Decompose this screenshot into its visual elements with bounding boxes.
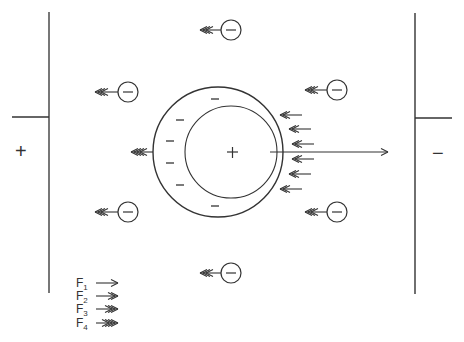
ion-top [200,20,241,40]
charged-particle [131,87,388,217]
cloud-drag-arrow-f4 [131,149,153,156]
legend-arrow-f3 [96,306,118,313]
ion-upper-left [95,82,138,102]
electric-force-arrow-f1 [270,149,388,156]
right-plate-sign: − [432,143,444,163]
legend-arrow-f2 [96,293,118,300]
ion-lower-right [305,202,347,222]
legend-label-f4: F4 [76,317,88,334]
ion-lower-left [95,202,138,222]
ion-upper-right [305,80,347,100]
core-plus-sign [227,147,238,158]
legend-arrow-f4 [96,320,118,327]
legend-arrows [96,280,118,327]
electrophoresis-diagram [0,0,464,342]
cloud-negative-charges [166,99,219,206]
ion-bottom [200,263,241,283]
left-plate-sign: + [15,141,27,161]
outer-ion-cloud [153,87,283,217]
legend-arrow-f1 [96,280,118,287]
